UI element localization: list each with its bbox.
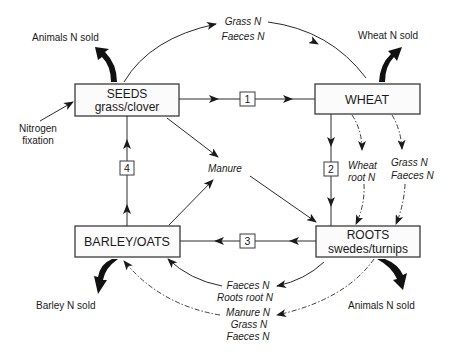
label-roots-root-n: Roots root N <box>217 292 274 303</box>
seeds-title: SEEDS <box>107 87 148 101</box>
bold-arrow-icon <box>379 47 402 82</box>
flow-step-2: 2 <box>324 114 338 226</box>
label-grass-n-top: Grass N <box>225 16 262 27</box>
step-3-label: 3 <box>245 235 251 247</box>
bold-arrow-icon <box>95 47 117 82</box>
output-wheat-sold: Wheat N sold <box>358 30 418 82</box>
step-4-label: 4 <box>124 162 130 174</box>
bold-arrow-icon <box>377 259 407 290</box>
label-root-n: root N <box>348 172 376 183</box>
barley-title: BARLEY/OATS <box>84 235 170 249</box>
output-barley-sold: Barley N sold <box>36 259 118 311</box>
label-faeces-n-bottom: Faeces N <box>227 280 271 291</box>
node-barley-oats: BARLEY/OATS <box>75 226 180 257</box>
flow-wheat-grass-faeces: Grass N Faeces N <box>391 115 435 224</box>
label-wheat: Wheat <box>348 160 378 171</box>
flow-roots-to-barley: Faeces N Roots root N <box>168 259 324 303</box>
label-fixation: fixation <box>22 135 54 146</box>
roots-subtitle: swedes/turnips <box>328 242 408 256</box>
seeds-subtitle: grass/clover <box>95 100 160 114</box>
step-1-label: 1 <box>245 93 251 105</box>
nitrogen-crop-rotation-diagram: Grass N Faeces N Nitrogen fixation SEEDS… <box>0 0 455 356</box>
label-grass-n-right: Grass N <box>391 157 428 168</box>
flow-manure: Manure <box>167 118 316 225</box>
arrow-manure-to-roots <box>250 176 316 222</box>
arc-left-segment <box>124 24 216 82</box>
label-faeces-n-right: Faeces N <box>391 170 435 181</box>
flow-step-4: 4 <box>120 116 134 226</box>
arrow-fixation <box>40 102 73 121</box>
label-faeces-n-top: Faeces N <box>222 31 266 42</box>
arrow-barley-to-manure <box>169 180 213 225</box>
label-animals-n-sold-bottom: Animals N sold <box>348 300 415 311</box>
label-animals-n-sold-top: Animals N sold <box>32 32 99 43</box>
arrow-seeds-to-manure <box>167 118 218 157</box>
bold-arrow-icon <box>94 259 118 294</box>
label-nitrogen: Nitrogen <box>19 123 57 134</box>
label-grass-n-bottom: Grass N <box>231 319 268 330</box>
label-manure-n: Manure N <box>226 307 271 318</box>
node-wheat: WHEAT <box>315 84 420 114</box>
flow-step-1: 1 <box>179 92 315 106</box>
flow-wheat-root-n: Wheat root N <box>348 115 378 224</box>
flow-step-3: 3 <box>180 234 316 248</box>
output-animals-sold-roots: Animals N sold <box>348 259 415 311</box>
wheat-title: WHEAT <box>345 93 390 107</box>
label-wheat-n-sold: Wheat N sold <box>358 30 418 41</box>
label-manure: Manure <box>208 163 242 174</box>
roots-title: ROOTS <box>347 228 390 242</box>
output-animals-sold-seeds: Animals N sold <box>32 32 117 82</box>
arc-right-segment <box>268 22 366 78</box>
node-seeds: SEEDS grass/clover <box>75 84 179 116</box>
label-barley-n-sold: Barley N sold <box>36 300 95 311</box>
step-2-label: 2 <box>328 163 334 175</box>
arc-seeds-to-wheat: Grass N Faeces N <box>124 16 366 82</box>
node-roots: ROOTS swedes/turnips <box>316 226 420 257</box>
label-faeces-n-last: Faeces N <box>227 331 271 342</box>
nitrogen-fixation-input: Nitrogen fixation <box>19 102 73 146</box>
